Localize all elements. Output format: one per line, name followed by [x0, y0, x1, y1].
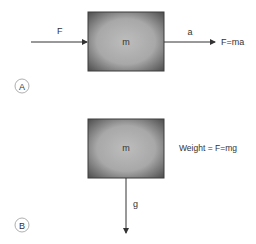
panel-marker-label: A	[19, 82, 25, 92]
newton-law-diagram: F m a F=ma A m Weight = F=mg g B	[0, 0, 256, 244]
mass-label: m	[122, 37, 130, 47]
force-label: F	[57, 26, 63, 36]
mass-label: m	[122, 143, 130, 153]
gravity-label: g	[133, 199, 138, 209]
panel-a: F m a F=ma A	[15, 12, 244, 93]
equation-label: F=ma	[221, 37, 244, 47]
panel-marker-label: B	[19, 221, 25, 231]
acceleration-label: a	[187, 27, 192, 37]
weight-equation-label: Weight = F=mg	[179, 143, 237, 153]
panel-b: m Weight = F=mg g B	[15, 119, 237, 233]
